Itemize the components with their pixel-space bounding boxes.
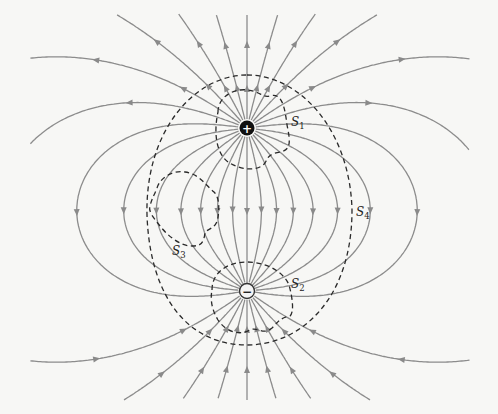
arrow-icon [223,324,232,333]
arrow-icon [244,85,250,92]
field-line [30,296,239,362]
field-line [249,137,261,283]
field-line [254,57,469,123]
negative-charge: − [240,284,255,299]
arrow-icon [223,365,231,373]
arrow-icon [230,207,236,214]
field-line [117,15,241,121]
arrow-icon [244,366,250,373]
arrow-icon [244,208,250,215]
arrow-icon [198,208,204,215]
arrow-icon [365,100,372,106]
arrow-icon [264,83,273,92]
field-line [249,300,276,399]
arrow-icon [310,208,316,215]
arrow-icon [265,41,273,49]
arrow-icon [244,41,250,48]
arrow-icon [253,324,261,332]
label-s1: S1 [291,115,305,131]
arrow-icon [121,207,127,214]
arrow-icon [198,365,207,374]
field-line [254,296,469,362]
arrow-icon [291,39,300,48]
minus-sign-icon: − [242,285,252,299]
field-line [249,15,277,119]
gaussian-surface-s3 [150,172,219,246]
arrow-icon [414,209,420,216]
field-line [254,131,337,288]
arrow-icon [179,326,188,335]
arrow-icon [194,39,203,48]
field-line [156,131,239,288]
dipole-field-diagram: + − S1 S2 S3 S4 [0,0,498,414]
arrow-icon [153,208,159,215]
arrow-icon [308,83,317,91]
arrow-icon [263,365,271,373]
arrow-icon [290,208,296,215]
field-line [30,103,238,144]
field-line [253,15,377,121]
field-line [216,15,244,119]
arrow-icon [308,327,317,335]
arrow-icon [253,84,261,92]
arrow-icon [221,83,230,92]
arrow-icon [234,324,242,332]
arrow-icon [178,84,187,92]
arrow-icon [233,84,241,92]
field-line [124,298,241,400]
arrow-icon [125,100,132,106]
positive-charge: + [240,121,255,136]
arrow-icon [287,365,296,374]
arrow-icon [273,208,279,215]
label-s2: S2 [291,277,305,293]
field-lines [30,14,469,400]
arrow-icon [258,207,264,214]
arrow-icon [222,41,230,49]
label-s3: S3 [172,244,186,260]
arrow-icon [74,209,80,216]
arrow-icon [214,208,220,215]
arrow-icon [335,208,341,215]
field-line [253,298,370,400]
field-line [233,137,245,283]
plus-sign-icon: + [242,122,252,136]
field-line [218,300,245,399]
arrow-icon [178,208,184,215]
